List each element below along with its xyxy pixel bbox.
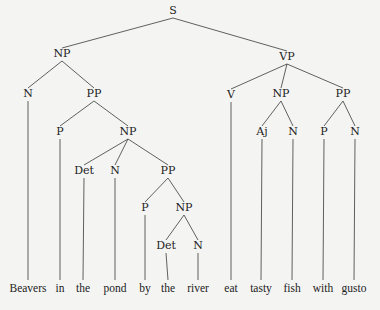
tree-edge xyxy=(28,61,62,88)
leaf-word: gusto xyxy=(342,282,367,295)
node-p1: P xyxy=(56,125,64,138)
leaf-word: in xyxy=(56,282,65,294)
leaf-edge xyxy=(323,139,324,280)
leaf-edge xyxy=(261,139,262,280)
syntax-tree: SNPVPNPPVNPPPPNPAjNPNDetNPPPNPDetN Beave… xyxy=(0,0,380,310)
leaf-edge xyxy=(166,253,168,280)
tree-edge xyxy=(145,178,168,202)
leaf-word: the xyxy=(76,282,90,294)
leaf-word: Beavers xyxy=(9,282,47,294)
leaf-word: the xyxy=(161,282,175,294)
leaf-word: eat xyxy=(224,282,238,294)
leaf-edge xyxy=(83,178,84,280)
leaf-word: fish xyxy=(283,282,301,294)
node-s: S xyxy=(169,4,177,17)
node-p3: P xyxy=(320,125,328,138)
node-pp1: PP xyxy=(87,87,102,100)
tree-edges xyxy=(28,18,355,280)
node-n5: N xyxy=(350,125,360,138)
tree-edge xyxy=(60,101,94,126)
tree-edge xyxy=(324,101,343,126)
node-det1: Det xyxy=(74,164,94,177)
node-det2: Det xyxy=(156,239,176,252)
tree-edge xyxy=(281,64,287,88)
node-p2: P xyxy=(141,201,149,214)
tree-edge xyxy=(287,64,343,88)
leaf-word: with xyxy=(313,282,334,294)
node-n4: N xyxy=(288,125,298,138)
tree-edge xyxy=(128,139,168,165)
node-np1: NP xyxy=(53,47,71,60)
leaf-word: by xyxy=(139,282,151,295)
tree-edge xyxy=(343,101,355,126)
leaf-edge xyxy=(354,139,355,280)
tree-edge xyxy=(184,215,198,240)
tree-edge xyxy=(173,18,287,51)
tree-edge xyxy=(62,61,94,88)
tree-edge xyxy=(94,101,128,126)
leaf-edge xyxy=(292,139,293,280)
node-np4: NP xyxy=(272,87,290,100)
tree-nodes: SNPVPNPPVNPPPPNPAjNPNDetNPPPNPDetN xyxy=(23,4,360,252)
leaf-word: river xyxy=(187,282,209,294)
node-pp3: PP xyxy=(336,87,351,100)
leaf-word: pond xyxy=(104,282,127,295)
node-n1: N xyxy=(23,87,33,100)
node-vp: VP xyxy=(278,50,295,63)
node-np3: NP xyxy=(175,201,193,214)
tree-leaves: Beaversinthepondbytherivereattastyfishwi… xyxy=(9,282,366,295)
node-pp2: PP xyxy=(161,164,176,177)
tree-edge xyxy=(166,215,184,240)
node-n3: N xyxy=(193,239,203,252)
node-np2: NP xyxy=(119,125,137,138)
tree-edge xyxy=(62,18,173,48)
tree-edge xyxy=(281,101,293,126)
tree-edge xyxy=(231,64,287,89)
leaf-word: tasty xyxy=(250,282,272,295)
node-aj: Aj xyxy=(255,125,267,138)
tree-edge xyxy=(262,101,281,126)
node-n2: N xyxy=(110,164,120,177)
tree-edge xyxy=(168,178,184,202)
node-v: V xyxy=(226,88,236,101)
